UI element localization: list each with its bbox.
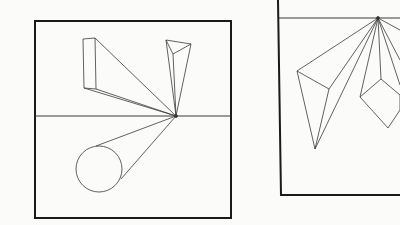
right-panel [278, 0, 400, 195]
left-frame [35, 21, 231, 218]
triangular-prism-right [297, 18, 378, 149]
left-panel [35, 21, 231, 218]
triangular-prism [166, 40, 191, 116]
cube-shape [360, 18, 400, 128]
perspective-diagram [0, 0, 400, 225]
cylinder-shape [76, 116, 176, 192]
box-shape [83, 38, 176, 116]
